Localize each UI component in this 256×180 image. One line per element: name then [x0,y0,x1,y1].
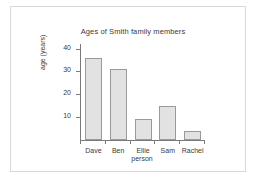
y-tick: 20 [76,94,80,95]
x-tick [130,140,131,144]
x-tick-label: Ben [112,147,124,154]
y-tick: 30 [76,71,80,72]
bar [184,131,201,140]
y-tick-label: 40 [63,44,71,51]
bar [85,58,102,140]
x-tick-label: Rachel [182,147,204,154]
x-tick-label: Ellie [136,147,149,154]
x-tick [80,140,81,144]
x-tick [154,140,155,144]
y-axis-title: age (years) [39,35,46,70]
x-axis-title: person [80,155,204,162]
y-tick-label: 30 [63,66,71,73]
chart-title: Ages of Smith family members [48,27,218,36]
bar-chart: Ages of Smith family members age (years)… [0,0,256,180]
bar [110,69,127,140]
bar [159,106,176,140]
y-tick-label: 10 [63,112,71,119]
plot-area: 10203040 DaveBenEllieSamRachel [80,44,204,141]
y-tick-label: 20 [63,89,71,96]
y-tick: 40 [76,49,80,50]
y-tick: 10 [76,117,80,118]
bar [135,119,152,140]
screenshot-root: Ages of Smith family members age (years)… [0,0,256,180]
x-axis-line [80,140,204,141]
x-tick [204,140,205,144]
y-axis-line [80,44,81,141]
x-tick-label: Sam [161,147,175,154]
x-tick-label: Dave [85,147,101,154]
x-tick [105,140,106,144]
x-tick [179,140,180,144]
